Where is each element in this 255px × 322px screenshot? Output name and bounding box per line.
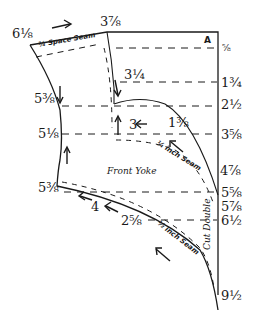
point-label-neck-bottom: 3 <box>129 118 137 131</box>
scale-label-1: ⅝ <box>222 44 231 53</box>
point-label-left-2: 5⅛ <box>38 127 59 140</box>
pattern-title: Front Yoke <box>107 167 157 176</box>
scale-label-4: 3⅝ <box>221 128 242 141</box>
point-label-bottom-1: 4 <box>91 200 99 213</box>
point-label-bottom-2: 2⅝ <box>121 214 142 227</box>
point-label-neck-top: 3⅞ <box>100 15 121 28</box>
scale-label-3: 2½ <box>221 98 242 111</box>
point-label-left-1: 5⅜ <box>34 92 55 105</box>
point-label-neck-mid: 3¼ <box>124 68 145 81</box>
scale-label-7: 5⅞ <box>221 200 242 213</box>
scale-label-5: 4⅞ <box>220 164 241 177</box>
fold-label: Cut Double <box>203 198 212 250</box>
point-label-left-3: 5⅜ <box>38 181 59 194</box>
scale-label-9: 9½ <box>221 289 242 302</box>
corner-label-a: A <box>204 36 211 45</box>
scale-label-8: 6½ <box>221 214 242 227</box>
front-yoke-pattern-diagram: ⅝ 1¾ 2½ 3⅝ 4⅞ 5⅝ 5⅞ 6½ 9½ 6⅛ 5⅜ 5⅛ 5⅜ 3⅞… <box>0 0 255 322</box>
scale-label-6: 5⅝ <box>221 186 242 199</box>
point-label-armhole: 1⅜ <box>168 116 189 129</box>
point-label-shoulder: 6⅛ <box>12 27 33 40</box>
scale-label-2: 1¾ <box>221 76 242 89</box>
